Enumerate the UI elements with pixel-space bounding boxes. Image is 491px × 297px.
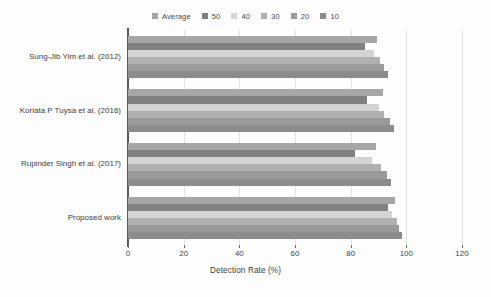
bar-fill — [128, 232, 402, 239]
x-axis-title: Detection Rate (%) — [0, 266, 491, 275]
bar — [128, 197, 395, 204]
legend-swatch-icon — [202, 13, 208, 19]
legend-swatch-icon — [291, 13, 297, 19]
bar-group — [128, 84, 462, 138]
y-axis-tick-label: Rupinder Singh et al. (2017) — [21, 159, 121, 168]
gridline — [462, 30, 463, 245]
chart-figure: Average5040302010 Sung-Jib Yim et al. (2… — [0, 0, 491, 297]
chart-legend: Average5040302010 — [0, 8, 491, 24]
bar-fill — [128, 218, 397, 225]
bar — [128, 171, 387, 178]
bar-fill — [128, 89, 383, 96]
bar-fill — [128, 150, 355, 157]
bar — [128, 89, 383, 96]
bar — [128, 36, 377, 43]
bar — [128, 143, 376, 150]
bar — [128, 118, 390, 125]
legend-swatch-icon — [231, 13, 237, 19]
legend-label: 40 — [241, 12, 250, 21]
x-axis-tick-mark — [351, 245, 352, 248]
bar-fill — [128, 211, 392, 218]
bar-fill — [128, 171, 387, 178]
legend-label: 50 — [212, 12, 221, 21]
x-axis-tick-label: 80 — [346, 249, 355, 258]
legend-swatch-icon — [152, 13, 158, 19]
bar — [128, 64, 384, 71]
x-axis: 020406080100120 — [128, 245, 462, 261]
bar — [128, 43, 365, 50]
bar-fill — [128, 43, 365, 50]
y-axis-tick-label: Koriata P Tuysa et al. (2016) — [20, 106, 121, 115]
x-axis-tick-mark — [406, 245, 407, 248]
bar-fill — [128, 104, 379, 111]
bar-fill — [128, 225, 399, 232]
bar — [128, 57, 380, 64]
x-axis-tick-label: 40 — [235, 249, 244, 258]
bar — [128, 164, 381, 171]
bar-fill — [128, 157, 372, 164]
bar — [128, 71, 388, 78]
x-axis-tick-label: 20 — [179, 249, 188, 258]
bar-fill — [128, 57, 380, 64]
plot-area — [128, 30, 462, 245]
bar-fill — [128, 64, 384, 71]
legend-entry: 40 — [231, 12, 250, 21]
bar — [128, 96, 367, 103]
bar-group — [128, 30, 462, 84]
bar — [128, 50, 374, 57]
x-axis-tick-mark — [295, 245, 296, 248]
legend-label: 30 — [271, 12, 280, 21]
legend-entry: 20 — [291, 12, 310, 21]
bar-fill — [128, 179, 391, 186]
bar — [128, 111, 384, 118]
bar — [128, 104, 379, 111]
bar-fill — [128, 71, 388, 78]
x-axis-tick-mark — [128, 245, 129, 248]
x-axis-tick-label: 120 — [455, 249, 468, 258]
legend-swatch-icon — [261, 13, 267, 19]
bar — [128, 204, 388, 211]
legend-entry: 50 — [202, 12, 221, 21]
bar — [128, 211, 392, 218]
bar-fill — [128, 125, 394, 132]
bar — [128, 157, 372, 164]
bar — [128, 232, 402, 239]
bar-fill — [128, 164, 381, 171]
bar-fill — [128, 204, 388, 211]
legend-label: Average — [162, 12, 191, 21]
x-axis-tick-mark — [239, 245, 240, 248]
bar — [128, 225, 399, 232]
legend-entry: 30 — [261, 12, 280, 21]
x-axis-tick-mark — [184, 245, 185, 248]
bar — [128, 179, 391, 186]
bar — [128, 218, 397, 225]
bar-fill — [128, 143, 376, 150]
bar-fill — [128, 197, 395, 204]
x-axis-tick-label: 100 — [400, 249, 413, 258]
legend-label: 20 — [301, 12, 310, 21]
y-axis-labels: Sung-Jib Yim et al. (2012)Koriata P Tuys… — [0, 30, 124, 245]
y-axis-tick-label: Sung-Jib Yim et al. (2012) — [29, 52, 121, 61]
legend-entry: 10 — [320, 12, 339, 21]
legend-entry: Average — [152, 12, 191, 21]
x-axis-tick-label: 0 — [126, 249, 130, 258]
bar-group — [128, 138, 462, 192]
x-axis-tick-label: 60 — [291, 249, 300, 258]
x-axis-tick-mark — [462, 245, 463, 248]
bar-group — [128, 191, 462, 245]
bar-fill — [128, 96, 367, 103]
legend-swatch-icon — [320, 13, 326, 19]
bar — [128, 150, 355, 157]
bar-fill — [128, 50, 374, 57]
y-axis-tick-label: Proposed work — [68, 213, 121, 222]
bar — [128, 125, 394, 132]
legend-label: 10 — [330, 12, 339, 21]
bar-fill — [128, 111, 384, 118]
bar-fill — [128, 118, 390, 125]
bar-fill — [128, 36, 377, 43]
